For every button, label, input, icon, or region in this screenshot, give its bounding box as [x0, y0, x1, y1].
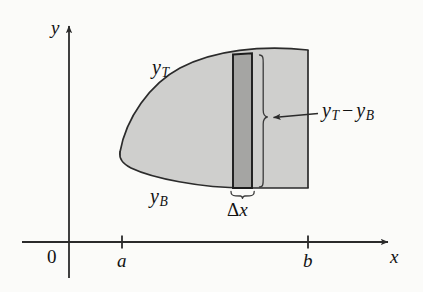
bottom-curve-label: yB — [150, 186, 168, 209]
diagram-svg — [0, 0, 423, 292]
width-brace-path — [231, 192, 254, 199]
x-axis-label: x — [390, 247, 398, 266]
figure-canvas: y x 0 a b yT yB Δx yT−yB — [0, 0, 423, 292]
y-axis-label: y — [51, 18, 59, 37]
region-between-curves — [120, 48, 308, 188]
minus-sign: − — [342, 99, 353, 121]
bottom-curve-subscript: B — [159, 194, 167, 209]
tick-label-b: b — [303, 251, 313, 270]
height-bottom-subscript: B — [366, 108, 374, 123]
top-curve-subscript: T — [161, 65, 169, 80]
top-curve-base: y — [152, 56, 161, 78]
region-fill — [120, 48, 308, 188]
strip-height-label: yT−yB — [322, 100, 374, 123]
delta-symbol: Δ — [227, 199, 239, 220]
width-brace — [231, 192, 254, 199]
top-curve-label: yT — [152, 57, 169, 80]
height-top-subscript: T — [331, 108, 339, 123]
bottom-curve-base: y — [150, 185, 159, 207]
strip-fill — [233, 53, 252, 188]
representative-rectangle — [233, 53, 252, 188]
strip-width-label: Δx — [227, 200, 248, 219]
height-bottom-base: y — [356, 99, 365, 121]
origin-label: 0 — [47, 247, 57, 266]
height-top-base: y — [322, 99, 331, 121]
tick-label-a: a — [117, 251, 127, 270]
delta-variable: x — [239, 199, 247, 220]
